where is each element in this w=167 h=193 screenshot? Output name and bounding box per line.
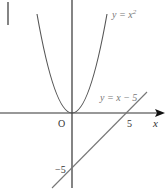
graph: y = x2 y = x − 5 O 5 −5 x: [0, 0, 167, 193]
y-tick-neg5: −5: [55, 164, 66, 175]
x-axis-label: x: [152, 117, 158, 129]
line-y-equals-x-minus-5: [52, 92, 147, 188]
line-label: y = x − 5: [99, 92, 137, 103]
parabola-label: y = x2: [111, 8, 137, 20]
x-tick-5: 5: [127, 118, 132, 129]
origin-label: O: [58, 118, 65, 129]
